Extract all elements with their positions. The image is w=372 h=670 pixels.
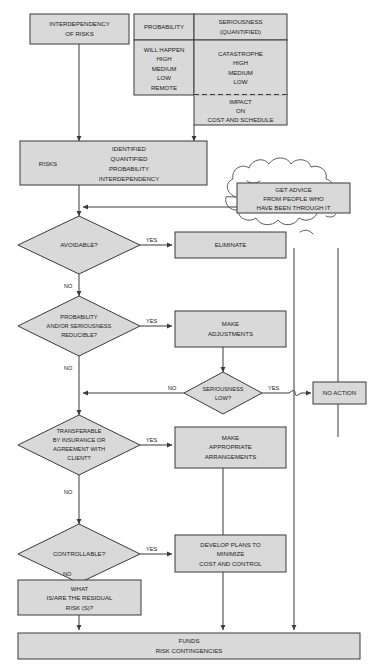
advice-line-1: FROM PEOPLE WHO xyxy=(263,195,324,202)
risks-item-3: INTERDEPENDENCY xyxy=(99,175,160,182)
node-risks[interactable]: RISKS IDENTIFIED QUANTIFIED PROBABILITY … xyxy=(20,141,207,185)
node-make-adjustments[interactable]: MAKE ADJUSTMENTS xyxy=(175,311,286,347)
reducible-line-1: AND/OR SERIOUSNESS xyxy=(47,323,112,329)
node-eliminate[interactable]: ELIMINATE xyxy=(175,232,286,258)
label-seriousness-no: NO xyxy=(168,385,177,391)
make-adjustments-line-1: ADJUSTMENTS xyxy=(208,330,253,337)
node-no-action[interactable]: NO ACTION xyxy=(313,382,366,404)
interdependency-line1: INTERDEPENDENCY xyxy=(49,20,110,27)
node-get-advice[interactable]: GET ADVICE FROM PEOPLE WHO HAVE BEEN THR… xyxy=(237,183,350,213)
node-residual-risk[interactable]: WHAT IS/ARE THE RESIDUAL RISK (S)? xyxy=(18,580,141,615)
no-action-label: NO ACTION xyxy=(323,389,357,396)
seriousness-value-3: LOW xyxy=(234,78,248,85)
probability-value-3: LOW xyxy=(157,74,171,81)
make-arrangements-line-2: ARRANGEMENTS xyxy=(205,453,256,460)
avoidable-label: AVOIDABLE? xyxy=(60,241,98,248)
impact-line-2: COST AND SCHEDULE xyxy=(208,116,274,123)
label-seriousness-yes: YES xyxy=(268,385,279,391)
make-adjustments-line-0: MAKE xyxy=(222,320,239,327)
residual-line-0: WHAT xyxy=(71,585,89,592)
residual-line-1: IS/ARE THE RESIDUAL xyxy=(47,594,114,601)
node-seriousness-low-decision[interactable]: SERIOUSNESS LOW? xyxy=(184,372,262,414)
controllable-label: CONTROLLABLE? xyxy=(53,550,106,557)
probability-value-1: HIGH xyxy=(156,55,171,62)
seriousness-value-1: HIGH xyxy=(233,59,248,66)
node-interdependency-of-risks[interactable]: INTERDEPENDENCY OF RISKS xyxy=(30,14,129,44)
label-avoidable-no: NO xyxy=(64,283,73,289)
advice-line-0: GET ADVICE xyxy=(275,186,311,193)
transferable-line-3: CLIENT? xyxy=(67,455,90,461)
seriousness-low-line-1: LOW? xyxy=(215,395,231,401)
table-header-probability: PROBABILITY xyxy=(144,23,184,30)
impact-line-0: IMPACT xyxy=(229,98,252,105)
label-transferable-no: NO xyxy=(64,489,73,495)
node-transferable-decision[interactable]: TRANSFERABLE BY INSURANCE OR AGREEMENT W… xyxy=(18,415,140,475)
make-arrangements-line-0: MAKE xyxy=(222,434,239,441)
advice-line-2: HAVE BEEN THROUGH IT xyxy=(257,204,331,211)
eliminate-label: ELIMINATE xyxy=(215,241,247,248)
seriousness-value-2: MEDIUM xyxy=(228,69,253,76)
develop-plans-line-1: MINIMIZE xyxy=(217,550,244,557)
risks-item-2: PROBABILITY xyxy=(109,165,149,172)
node-controllable-decision[interactable]: CONTROLLABLE? xyxy=(18,524,140,583)
interdependency-line2: OF RISKS xyxy=(65,30,93,37)
edge-labels: YES NO YES NO NO YES YES NO YES NO xyxy=(63,237,279,577)
label-reducible-yes: YES xyxy=(146,318,157,324)
edge-line-hop xyxy=(289,391,301,396)
label-reducible-no: NO xyxy=(64,365,73,371)
probability-value-0: WILL HAPPEN xyxy=(144,46,185,53)
develop-plans-line-0: DEVELOP PLANS TO xyxy=(200,541,261,548)
flowchart-canvas: INTERDEPENDENCY OF RISKS PROBABILITY SER… xyxy=(0,0,372,670)
probability-value-2: MEDIUM xyxy=(152,65,177,72)
seriousness-low-line-0: SERIOUSNESS xyxy=(202,386,243,392)
table-header-seriousness-2: (QUANTIFIED) xyxy=(220,28,261,35)
figure-caption xyxy=(28,665,188,670)
transferable-line-0: TRANSFERABLE xyxy=(56,428,101,434)
reducible-line-0: PROBABILITY xyxy=(60,314,98,320)
node-funds-risk-contingencies[interactable]: FUNDS RISK CONTINGENCIES xyxy=(18,633,360,659)
transferable-line-1: BY INSURANCE OR xyxy=(53,437,106,443)
impact-line-1: ON xyxy=(236,107,245,114)
reducible-line-2: REDUCIBLE? xyxy=(61,332,97,338)
node-make-arrangements[interactable]: MAKE APPROPRIATE ARRANGEMENTS xyxy=(175,427,286,468)
risks-label: RISKS xyxy=(39,160,57,167)
risks-item-0: IDENTIFIED xyxy=(112,145,146,152)
transferable-line-2: AGREEMENT WITH xyxy=(53,446,105,452)
funds-line-1: RISK CONTINGENCIES xyxy=(156,647,223,654)
label-controllable-no: NO xyxy=(63,571,72,577)
residual-line-2: RISK (S)? xyxy=(66,604,94,611)
table-header-seriousness-1: SERIOUSNESS xyxy=(218,18,262,25)
label-transferable-yes: YES xyxy=(146,437,157,443)
node-probability-seriousness-table[interactable]: PROBABILITY SERIOUSNESS (QUANTIFIED) WIL… xyxy=(134,14,287,125)
risks-item-1: QUANTIFIED xyxy=(111,155,149,162)
node-develop-plans[interactable]: DEVELOP PLANS TO MINIMIZE COST AND CONTR… xyxy=(175,535,286,572)
funds-line-0: FUNDS xyxy=(179,637,200,644)
make-arrangements-line-1: APPROPRIATE xyxy=(209,443,252,450)
probability-value-4: REMOTE xyxy=(151,84,177,91)
develop-plans-line-2: COST AND CONTROL xyxy=(199,560,262,567)
seriousness-value-0: CATASTROPHE xyxy=(218,50,263,57)
label-avoidable-yes: YES xyxy=(146,237,157,243)
node-reducible-decision[interactable]: PROBABILITY AND/OR SERIOUSNESS REDUCIBLE… xyxy=(18,296,140,356)
node-avoidable-decision[interactable]: AVOIDABLE? xyxy=(18,216,140,274)
label-controllable-yes: YES xyxy=(146,546,157,552)
